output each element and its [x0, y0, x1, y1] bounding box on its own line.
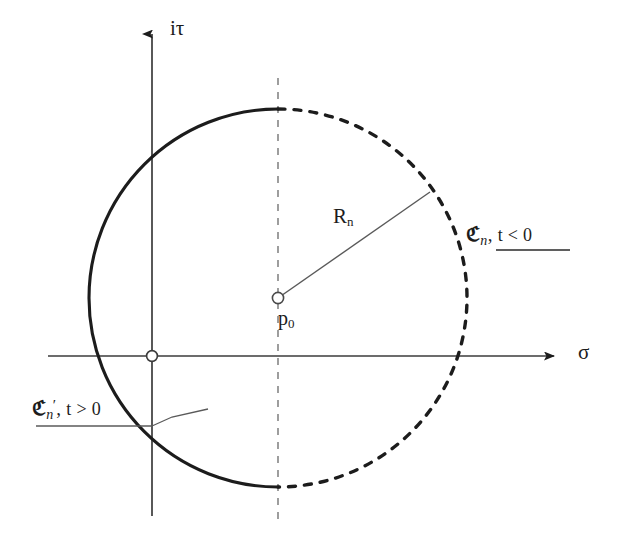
contour-separator-dashed: ,	[488, 224, 493, 245]
radius-line	[278, 192, 430, 298]
origin-marker	[147, 351, 158, 362]
radius-label: Rn	[333, 206, 354, 228]
vertical-axis-label: iτ	[170, 18, 184, 39]
contour-condition-solid: t > 0	[66, 399, 101, 419]
center-point-label-subscript: 0	[288, 316, 295, 331]
contour-subscript-dashed: n	[480, 233, 487, 248]
center-point-marker	[272, 292, 283, 303]
center-point-label: p0	[278, 308, 295, 330]
solid-label-leader-line	[152, 409, 208, 426]
dashed-arc-right	[278, 109, 467, 487]
radius-label-base: R	[333, 204, 347, 228]
contour-label-solid-arc: ℭn′, t > 0	[32, 398, 101, 422]
diagram-canvas	[0, 0, 624, 546]
contour-symbol-dashed: ℭ	[466, 222, 480, 246]
solid-arc-left	[89, 109, 278, 487]
contour-label-dashed-arc: ℭn, t < 0	[466, 224, 532, 248]
contour-symbol-solid: ℭ	[32, 396, 46, 420]
contour-diagram: iτ σ p0 Rn ℭn, t < 0 ℭn′, t > 0	[0, 0, 624, 546]
center-point-label-base: p	[278, 307, 288, 329]
contour-separator-solid: ,	[56, 398, 61, 419]
horizontal-axis-label: σ	[578, 342, 589, 363]
contour-condition-dashed: t < 0	[498, 225, 533, 245]
radius-label-subscript: n	[347, 214, 354, 229]
